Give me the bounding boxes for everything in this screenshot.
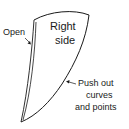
push-label-line3: and points <box>75 102 117 112</box>
open-label: Open <box>3 27 25 37</box>
pattern-piece-diagram: Right side Open Push out curves and poin… <box>0 0 129 129</box>
shape-label-right: Right <box>50 20 76 32</box>
open-arrow-head-icon <box>28 41 32 45</box>
push-label-line1: Push out <box>78 78 114 88</box>
push-arrow-head-icon <box>66 80 70 84</box>
push-arrow-line <box>69 82 76 84</box>
shape-label-side: side <box>55 34 75 46</box>
push-label-line2: curves <box>86 90 113 100</box>
